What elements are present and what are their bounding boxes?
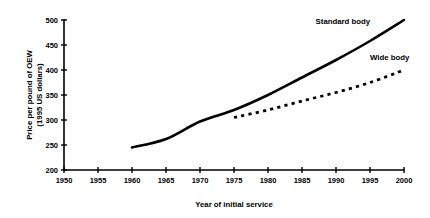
x-tick-label: 1970	[192, 176, 209, 185]
y-tick-label: 400	[45, 66, 58, 75]
series-label-wide-body: Wide body	[370, 53, 410, 62]
y-tick-label: 450	[45, 41, 58, 50]
x-tick-label: 1960	[124, 176, 141, 185]
x-axis-title: Year of initial service	[195, 200, 273, 209]
x-tick-label: 1955	[90, 176, 107, 185]
y-tick-label: 300	[45, 116, 58, 125]
y-axis-title-line2: (1995 US dollars)	[35, 63, 44, 127]
x-tick-label: 1995	[362, 176, 379, 185]
x-tick-label: 1965	[158, 176, 175, 185]
x-tick-label: 1950	[56, 176, 73, 185]
y-tick-label: 250	[45, 141, 58, 150]
series-line-wide-body	[234, 70, 404, 118]
series-label-standard-body: Standard body	[316, 17, 371, 26]
x-tick-label: 1980	[260, 176, 277, 185]
x-tick-label: 2000	[396, 176, 413, 185]
y-tick-label: 200	[45, 166, 58, 175]
x-tick-label: 1975	[226, 176, 243, 185]
y-axis-title-line1: Price per pound of OEW	[25, 50, 34, 140]
y-tick-label: 350	[45, 91, 58, 100]
chart-container: 200250300350400450500 195019551960196519…	[0, 0, 430, 218]
y-axis: 200250300350400450500	[45, 16, 67, 175]
x-tick-label: 1985	[294, 176, 311, 185]
y-tick-label: 500	[45, 16, 58, 25]
chart-plot: 200250300350400450500 195019551960196519…	[0, 0, 430, 218]
x-tick-label: 1990	[328, 176, 345, 185]
series-layer	[132, 20, 404, 148]
x-axis: 1950195519601965197019751980198519901995…	[56, 167, 413, 185]
